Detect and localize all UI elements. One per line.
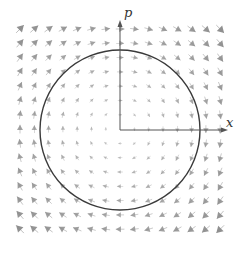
vector-arrow-icon bbox=[101, 226, 107, 232]
vector-arrow-icon bbox=[17, 110, 23, 116]
vector-arrow-icon bbox=[203, 128, 208, 133]
vector-arrow-icon bbox=[46, 183, 51, 189]
vector-arrow-icon bbox=[90, 26, 96, 32]
vector-arrow-icon bbox=[147, 84, 151, 88]
phase-portrait-diagram: p x bbox=[0, 0, 245, 253]
vector-arrow-icon bbox=[75, 70, 80, 74]
vector-arrow-icon bbox=[146, 170, 150, 174]
vector-arrow-icon bbox=[60, 27, 67, 33]
vector-arrow-icon bbox=[118, 156, 121, 159]
vector-arrow-icon bbox=[46, 69, 51, 75]
vector-arrow-icon bbox=[175, 26, 182, 32]
vector-arrow-icon bbox=[46, 140, 51, 145]
vector-arrow-icon bbox=[173, 226, 180, 232]
vector-arrow-icon bbox=[189, 114, 194, 119]
vector-arrow-icon bbox=[32, 125, 37, 130]
vector-arrow-icon bbox=[130, 226, 136, 232]
vector-arrow-icon bbox=[105, 26, 111, 32]
vector-arrow-icon bbox=[17, 125, 23, 130]
vector-arrow-icon bbox=[105, 41, 110, 46]
vector-arrow-icon bbox=[103, 184, 107, 188]
vector-arrow-icon bbox=[203, 69, 208, 75]
vector-arrow-icon bbox=[217, 69, 223, 76]
vector-arrow-icon bbox=[217, 55, 223, 62]
vector-arrow-icon bbox=[203, 114, 208, 119]
vector-arrow-icon bbox=[203, 142, 208, 147]
vector-arrow-icon bbox=[118, 142, 120, 145]
vector-arrow-icon bbox=[61, 169, 65, 174]
vector-arrow-icon bbox=[31, 54, 37, 60]
vector-arrow-icon bbox=[189, 26, 196, 32]
vector-arrow-icon bbox=[131, 184, 135, 188]
vector-arrow-icon bbox=[74, 199, 79, 204]
vector-arrow-icon bbox=[74, 184, 79, 188]
vector-arrow-icon bbox=[217, 156, 223, 162]
vector-arrow-icon bbox=[217, 142, 223, 148]
vector-arrow-icon bbox=[76, 155, 80, 159]
vector-arrow-icon bbox=[175, 40, 181, 45]
vector-arrow-icon bbox=[17, 153, 23, 159]
vector-arrow-icon bbox=[61, 126, 65, 130]
vector-arrow-icon bbox=[133, 55, 138, 60]
vector-arrow-icon bbox=[202, 226, 209, 233]
vector-arrow-icon bbox=[17, 39, 24, 46]
vector-arrow-icon bbox=[175, 114, 179, 118]
vector-arrow-icon bbox=[46, 83, 51, 88]
vector-arrow-icon bbox=[175, 142, 179, 146]
vector-arrow-icon bbox=[32, 183, 37, 189]
vector-arrow-icon bbox=[217, 114, 223, 120]
vector-arrow-icon bbox=[217, 212, 224, 219]
vector-arrow-icon bbox=[75, 56, 80, 61]
vector-arrow-icon bbox=[17, 139, 23, 145]
vector-arrow-icon bbox=[89, 170, 93, 174]
vector-arrow-icon bbox=[31, 197, 37, 203]
vector-arrow-icon bbox=[46, 111, 51, 116]
vector-arrow-icon bbox=[190, 170, 195, 175]
vector-arrow-icon bbox=[61, 55, 67, 60]
vector-arrow-icon bbox=[147, 26, 153, 32]
vector-arrow-icon bbox=[17, 197, 23, 204]
vector-arrow-icon bbox=[17, 54, 23, 61]
vector-arrow-icon bbox=[17, 211, 24, 218]
vector-arrow-icon bbox=[45, 212, 51, 218]
vector-arrow-icon bbox=[117, 170, 120, 174]
vector-arrow-icon bbox=[117, 198, 121, 203]
vector-arrow-icon bbox=[31, 68, 36, 74]
x-axis-label: x bbox=[226, 116, 233, 129]
vector-arrow-icon bbox=[31, 26, 38, 33]
vector-arrow-icon bbox=[116, 226, 121, 232]
vector-arrow-icon bbox=[32, 139, 37, 144]
vector-arrow-icon bbox=[188, 212, 194, 218]
vector-arrow-icon bbox=[133, 26, 139, 32]
vector-arrow-icon bbox=[61, 140, 65, 144]
vector-arrow-icon bbox=[102, 212, 107, 217]
vector-arrow-icon bbox=[87, 226, 93, 232]
vector-arrow-icon bbox=[130, 212, 135, 217]
vector-arrow-icon bbox=[133, 40, 138, 45]
vector-arrow-icon bbox=[45, 226, 52, 232]
vector-arrow-icon bbox=[189, 40, 195, 46]
vector-arrow-icon bbox=[133, 70, 137, 74]
vector-arrow-icon bbox=[203, 55, 209, 61]
vector-arrow-icon bbox=[90, 127, 93, 130]
vector-arrow-icon bbox=[31, 111, 36, 116]
vector-arrow-icon bbox=[189, 70, 194, 76]
vector-arrow-icon bbox=[61, 83, 65, 88]
vector-arrow-icon bbox=[217, 99, 223, 105]
vector-arrow-icon bbox=[59, 227, 66, 233]
vector-arrow-icon bbox=[60, 198, 66, 203]
vector-arrow-icon bbox=[17, 68, 23, 75]
vector-arrow-icon bbox=[46, 126, 51, 130]
vector-arrow-icon bbox=[46, 26, 53, 32]
vector-arrow-icon bbox=[161, 99, 165, 103]
vector-arrow-icon bbox=[160, 184, 165, 188]
vector-arrow-icon bbox=[105, 55, 110, 60]
vector-arrow-icon bbox=[59, 212, 65, 217]
vector-arrow-icon bbox=[18, 182, 24, 189]
vector-arrow-icon bbox=[60, 41, 66, 46]
vector-arrow-icon bbox=[203, 184, 208, 190]
vector-arrow-icon bbox=[188, 226, 195, 232]
vector-arrow-icon bbox=[61, 112, 65, 116]
vector-arrow-icon bbox=[203, 198, 209, 204]
vector-arrow-icon bbox=[175, 55, 181, 60]
